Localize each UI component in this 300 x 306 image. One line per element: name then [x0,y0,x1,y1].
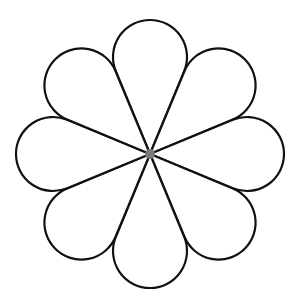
flower-diagram [0,0,300,306]
flower-center-dot [145,149,155,159]
